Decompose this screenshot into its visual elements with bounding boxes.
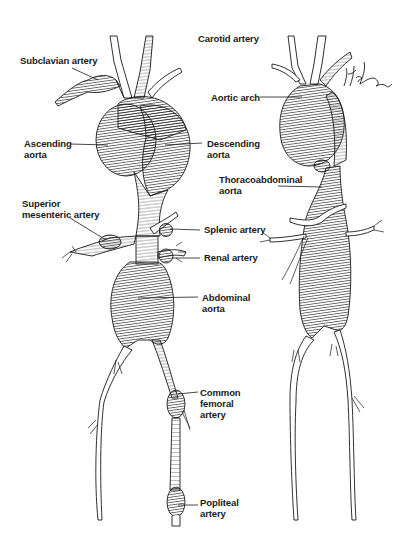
label-popliteal-artery: Popliteal artery [200,497,239,519]
abdominal-aorta-aneurysm [111,262,174,348]
label-abdominal-aorta: Abdominal aorta [202,292,250,314]
lateral-right-leg [334,330,356,520]
label-thoracoabdominal-aorta: Thoracoabdominal aorta [219,174,302,196]
label-line: femoral [200,398,241,409]
label-line: Common [200,387,241,398]
label-line: mesenteric artery [22,209,100,220]
superior-mesenteric-aneurysm [99,235,121,249]
left-subclavian-branch [148,68,182,98]
lateral-renal-branch-left [270,234,306,242]
suprarenal-aorta [136,236,158,264]
label-carotid-artery: Carotid artery [198,33,259,44]
right-iliac-leg [152,340,178,398]
label-line: aorta [24,149,72,160]
label-line: Splenic artery [204,224,265,235]
label-line: Aortic arch [211,92,260,103]
label-common-femoral-artery: Common femoral artery [200,387,241,420]
label-line: artery [200,508,239,519]
label-line: aorta [207,149,260,160]
label-line: Popliteal [200,497,239,508]
label-renal-artery: Renal artery [204,252,258,263]
label-line: aorta [219,185,302,196]
label-line: aorta [202,303,250,314]
common-femoral-aneurysm [167,390,185,418]
right-carotid-vessel [134,36,153,98]
superficial-femoral-artery [170,418,180,490]
lateral-renal-branch-right [346,226,374,236]
lateral-subclavian-branch [320,52,352,86]
label-line: Renal artery [204,252,258,263]
label-aortic-arch: Aortic arch [211,92,260,103]
label-line: Ascending [24,138,72,149]
label-line: Thoracoabdominal [219,174,302,185]
label-line: Abdominal [202,292,250,303]
lateral-left-leg [290,336,314,520]
renal-aneurysm [159,249,173,263]
label-line: Superior [22,198,100,209]
label-line: Carotid artery [198,33,259,44]
anterior-view [55,36,190,526]
thoracoabdominal-aneurysm [299,166,351,338]
label-line: artery [200,409,241,420]
subclavian-aneurysm [55,76,120,107]
aneurysm-illustration [0,0,403,552]
label-descending-aorta: Descending aorta [207,138,260,160]
artist-signature [344,62,392,87]
lateral-view [260,36,384,520]
label-subclavian-artery: Subclavian artery [20,55,98,66]
label-splenic-artery: Splenic artery [204,224,265,235]
label-line: Subclavian artery [20,55,98,66]
label-line: Descending [207,138,260,149]
popliteal-aneurysm [167,487,185,517]
splenic-aneurysm [160,224,173,237]
left-iliac-leg [96,346,132,520]
descending-aorta-aneurysm [140,105,190,196]
label-ascending-aorta: Ascending aorta [24,138,72,160]
label-superior-mesenteric-artery: Superior mesenteric artery [22,198,100,220]
